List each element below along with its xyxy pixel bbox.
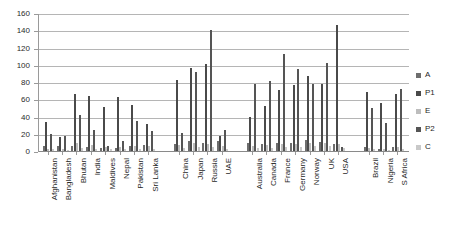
x-axis-tick-label: Pakistan xyxy=(137,158,145,189)
x-axis-tick-label: China xyxy=(182,158,190,179)
legend-item[interactable]: P2 xyxy=(416,120,459,138)
x-axis-tick-mark xyxy=(193,152,194,155)
x-axis-tick-mark xyxy=(76,152,77,155)
legend-item-label: A xyxy=(425,71,430,79)
bar xyxy=(103,107,105,152)
bar xyxy=(45,122,47,152)
x-axis-tick-mark xyxy=(91,152,92,155)
legend-item-label: P1 xyxy=(425,89,435,97)
y-axis-tick-label: 40 xyxy=(21,114,30,122)
x-axis-tick-mark xyxy=(120,152,121,155)
x-axis-tick-mark xyxy=(397,152,398,155)
x-axis-baseline xyxy=(39,151,409,152)
bar xyxy=(380,103,382,152)
x-axis-tick-mark xyxy=(324,152,325,155)
y-axis-tick-label: 100 xyxy=(17,62,30,70)
bar xyxy=(195,72,197,152)
bar xyxy=(312,84,314,152)
x-axis-tick-label: Japan xyxy=(197,158,205,180)
legend-item-label: C xyxy=(425,143,431,151)
bar xyxy=(131,105,133,152)
bar xyxy=(307,76,309,152)
x-axis-tick-mark xyxy=(252,152,253,155)
x-axis-tick-label: Norway xyxy=(313,158,321,185)
x-axis-tick-mark xyxy=(134,152,135,155)
legend-item-label: P2 xyxy=(425,125,435,133)
x-axis-tick-label: France xyxy=(284,158,292,183)
x-axis-tick-mark xyxy=(48,152,49,155)
legend-item[interactable]: E xyxy=(416,102,459,120)
legend-item[interactable]: A xyxy=(416,66,459,84)
bar xyxy=(297,69,299,152)
x-axis-tick-label: UK xyxy=(328,158,336,169)
bar xyxy=(336,25,338,152)
bar xyxy=(79,115,81,152)
y-axis: 020406080100120140160 xyxy=(0,0,34,225)
bar xyxy=(366,92,368,152)
x-axis-tick-label: USA xyxy=(342,158,350,174)
bar xyxy=(283,54,285,152)
legend: AP1EP2C xyxy=(416,66,459,156)
x-axis-tick-label: Nigeria xyxy=(387,158,395,183)
y-axis-tick-label: 80 xyxy=(21,79,30,87)
bar xyxy=(278,90,280,152)
legend-item[interactable]: P1 xyxy=(416,84,459,102)
x-axis-tick-mark xyxy=(281,152,282,155)
legend-swatch-icon xyxy=(416,127,421,132)
x-axis-tick-mark xyxy=(310,152,311,155)
x-axis-tick-label: Sri Lanka xyxy=(152,158,160,192)
y-axis-tick-label: 140 xyxy=(17,27,30,35)
x-axis-tick-label: Brazil xyxy=(372,158,380,178)
plot-area xyxy=(38,14,408,152)
bar xyxy=(88,96,90,152)
legend-item[interactable]: C xyxy=(416,138,459,156)
x-axis-tick-mark xyxy=(369,152,370,155)
legend-swatch-icon xyxy=(416,145,421,150)
bar-chart: 020406080100120140160 AfghanistanBanglad… xyxy=(0,0,459,225)
x-axis-tick-label: Maldives xyxy=(109,158,117,190)
legend-swatch-icon xyxy=(416,73,421,78)
y-axis-tick-label: 60 xyxy=(21,96,30,104)
x-axis-tick-mark xyxy=(383,152,384,155)
x-axis-tick-mark xyxy=(222,152,223,155)
x-axis-tick-label: S Africa xyxy=(401,158,409,186)
legend-item-label: E xyxy=(425,107,430,115)
x-axis-tick-label: Canada xyxy=(270,158,278,186)
bars-layer xyxy=(39,14,409,152)
x-axis-tick-label: India xyxy=(94,158,102,175)
bar xyxy=(269,81,271,152)
x-axis-tick-mark xyxy=(179,152,180,155)
bar xyxy=(176,80,178,152)
x-axis-tick-mark xyxy=(207,152,208,155)
bar xyxy=(371,108,373,152)
y-axis-tick-label: 120 xyxy=(17,45,30,53)
x-axis-tick-label: UAE xyxy=(225,158,233,174)
bar xyxy=(205,64,207,152)
x-axis-tick-label: Bangladesh xyxy=(65,158,73,200)
x-axis-tick-label: Russia xyxy=(211,158,219,182)
bar xyxy=(326,63,328,152)
legend-swatch-icon xyxy=(416,91,421,96)
x-axis-tick-label: Australia xyxy=(256,158,264,189)
bar xyxy=(136,121,138,152)
x-axis-tick-mark xyxy=(266,152,267,155)
x-axis-tick-label: Afghanistan xyxy=(51,158,59,200)
x-axis-tick-label: Nepal xyxy=(123,158,131,179)
bar xyxy=(385,123,387,152)
bar xyxy=(400,89,402,152)
x-axis-tick-label: Germany xyxy=(299,158,307,191)
legend-swatch-icon xyxy=(416,109,421,114)
y-axis-tick-label: 160 xyxy=(17,10,30,18)
y-axis-tick-label: 20 xyxy=(21,131,30,139)
x-axis-tick-mark xyxy=(338,152,339,155)
bar xyxy=(293,85,295,152)
x-axis: AfghanistanBangladeshBhutanIndiaMaldives… xyxy=(38,154,408,224)
x-axis-tick-mark xyxy=(105,152,106,155)
bar xyxy=(210,30,212,152)
y-axis-tick-mark xyxy=(34,152,38,153)
bar xyxy=(117,97,119,152)
x-axis-tick-mark xyxy=(62,152,63,155)
x-axis-tick-mark xyxy=(148,152,149,155)
bar xyxy=(190,68,192,152)
bar xyxy=(395,94,397,152)
